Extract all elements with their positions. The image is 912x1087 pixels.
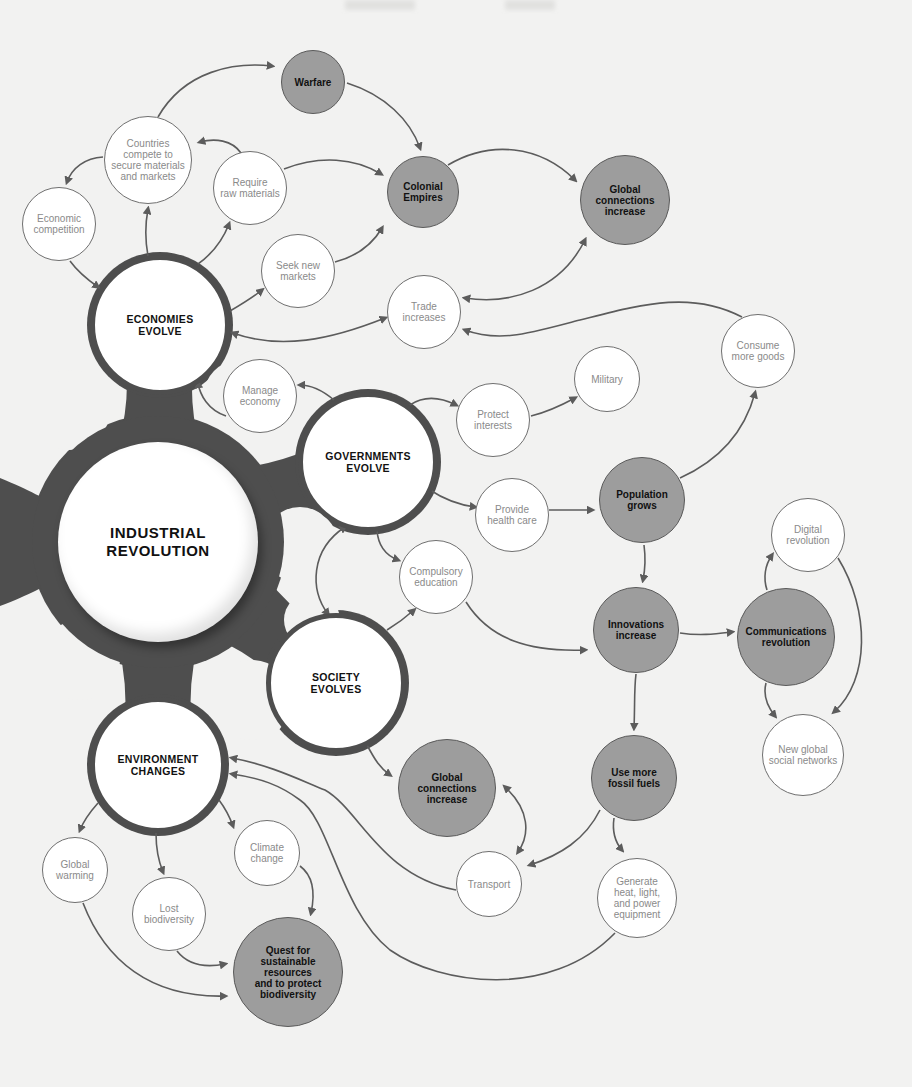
arrow-innovations-increase-to-use-more-fossil-fuels <box>634 674 636 728</box>
arrow-seek-new-markets-to-colonial-empires <box>335 228 382 262</box>
node-global-warming: Global warming <box>42 837 108 903</box>
node-label: Protect interests <box>474 409 512 431</box>
node-label: ECONOMIES EVOLVE <box>127 313 194 337</box>
node-label: Consume more goods <box>732 340 785 362</box>
arrow-lost-biodiversity-to-quest-sustainable <box>177 951 225 966</box>
arrow-environment-changes-to-global-warming <box>80 803 98 830</box>
node-global-connections-top: Global connections increase <box>580 155 670 245</box>
node-countries-compete: Countries compete to secure materials an… <box>104 116 192 204</box>
arrow-countries-compete-to-economic-competition <box>67 157 103 182</box>
node-label: Climate change <box>250 842 284 864</box>
arrow-population-grows-to-consume-more-goods <box>680 393 755 478</box>
node-governments-evolve: GOVERNMENTS EVOLVE <box>298 392 438 532</box>
arrow-communications-revolution-to-digital-revolution <box>765 555 772 590</box>
node-use-more-fossil-fuels: Use more fossil fuels <box>591 735 677 821</box>
node-new-global-social-networks: New global social networks <box>762 714 844 796</box>
arrow-society-evolves-to-global-connections-bottom <box>367 745 390 775</box>
arrow-governments-evolve-to-manage-economy <box>300 385 334 400</box>
arrow-economic-competition-to-economies-evolve <box>70 261 98 287</box>
node-require-raw-materials: Require raw materials <box>213 151 287 225</box>
node-label: Economic competition <box>33 213 84 235</box>
node-label: Colonial Empires <box>403 181 442 203</box>
node-consume-more-goods: Consume more goods <box>721 314 795 388</box>
mind-map-canvas: INDUSTRIAL REVOLUTIONECONOMIES EVOLVEGOV… <box>0 0 912 1087</box>
node-label: Innovations increase <box>608 619 664 641</box>
node-label: Compulsory education <box>409 566 462 588</box>
node-digital-revolution: Digital revolution <box>771 498 845 572</box>
node-generate-heat-light: Generate heat, light, and power equipmen… <box>597 858 677 938</box>
node-label: Population grows <box>616 489 668 511</box>
node-colonial-empires: Colonial Empires <box>387 156 459 228</box>
arrow-require-raw-materials-to-countries-compete <box>200 140 241 153</box>
arrow-governments-evolve-to-society-evolves <box>316 527 345 614</box>
arrow-innovations-increase-to-communications-revolution <box>680 632 732 635</box>
node-label: Use more fossil fuels <box>608 767 660 789</box>
arrow-governments-evolve-to-protect-interests <box>410 398 456 405</box>
node-lost-biodiversity: Lost biodiversity <box>132 877 206 951</box>
node-label: Seek new markets <box>276 260 320 282</box>
node-label: Lost biodiversity <box>144 903 194 925</box>
node-label: Global connections increase <box>596 184 655 217</box>
node-innovations-increase: Innovations increase <box>593 587 679 673</box>
arrow-global-connections-bottom-to-transport <box>505 787 526 852</box>
arrow-economies-evolve-to-require-raw-materials <box>198 224 229 264</box>
node-label: Require raw materials <box>220 177 279 199</box>
node-global-connections-bottom: Global connections increase <box>398 739 496 837</box>
arrow-governments-evolve-to-provide-health-care <box>430 490 475 507</box>
node-label: Trade increases <box>403 301 446 323</box>
arrow-economies-evolve-to-trade-increases <box>233 318 385 342</box>
node-label: Manage economy <box>240 385 281 407</box>
node-transport: Transport <box>456 851 522 917</box>
arrow-compulsory-education-to-innovations-increase <box>466 602 585 650</box>
node-economic-competition: Economic competition <box>22 187 96 261</box>
arrow-economies-evolve-to-seek-new-markets <box>230 290 262 311</box>
arrow-protect-interests-to-military <box>531 398 575 416</box>
node-economies-evolve: ECONOMIES EVOLVE <box>90 255 230 395</box>
node-label: GOVERNMENTS EVOLVE <box>325 450 411 474</box>
node-label: Transport <box>468 879 510 890</box>
arrow-society-evolves-to-compulsory-education <box>387 610 414 630</box>
node-seek-new-markets: Seek new markets <box>261 234 335 308</box>
node-label: New global social networks <box>769 744 837 766</box>
node-label: Generate heat, light, and power equipmen… <box>614 876 661 920</box>
arrow-governments-evolve-to-compulsory-education <box>377 530 398 560</box>
node-provide-health-care: Provide health care <box>475 478 549 552</box>
node-manage-economy: Manage economy <box>223 359 297 433</box>
node-label: SOCIETY EVOLVES <box>311 671 362 695</box>
arrow-use-more-fossil-fuels-to-transport <box>530 810 600 865</box>
node-trade-increases: Trade increases <box>387 275 461 349</box>
node-label: Global connections increase <box>418 772 477 805</box>
arrow-environment-changes-to-climate-change <box>219 800 233 826</box>
node-society-evolves: SOCIETY EVOLVES <box>266 613 406 753</box>
node-label: Military <box>591 374 623 385</box>
arrow-countries-compete-to-warfare <box>158 65 272 117</box>
arrow-communications-revolution-to-new-global-social-networks <box>765 683 775 716</box>
node-label: Provide health care <box>487 504 536 526</box>
node-quest-sustainable: Quest for sustainable resources and to p… <box>233 917 343 1027</box>
arrow-colonial-empires-to-global-connections-top <box>448 149 575 180</box>
node-label: Digital revolution <box>786 524 829 546</box>
node-climate-change: Climate change <box>234 820 300 886</box>
node-label: Warfare <box>295 77 332 88</box>
node-communications-revolution: Communications revolution <box>737 588 835 686</box>
node-label: INDUSTRIAL REVOLUTION <box>106 524 209 560</box>
arrow-warfare-to-colonial-empires <box>347 83 420 148</box>
node-industrial-revolution: INDUSTRIAL REVOLUTION <box>58 442 258 642</box>
arrow-population-grows-to-innovations-increase <box>643 545 645 580</box>
arrow-global-connections-top-to-trade-increases <box>465 240 585 300</box>
arrow-digital-revolution-to-new-global-social-networks <box>834 558 862 712</box>
node-military: Military <box>574 346 640 412</box>
arrow-manage-economy-to-economies-evolve <box>198 383 226 416</box>
arrow-climate-change-to-quest-sustainable <box>300 866 313 913</box>
node-compulsory-education: Compulsory education <box>399 540 473 614</box>
node-environment-changes: ENVIRONMENT CHANGES <box>90 697 226 833</box>
arrow-economies-evolve-to-countries-compete <box>146 209 148 256</box>
node-label: ENVIRONMENT CHANGES <box>118 753 199 777</box>
arrow-consume-more-goods-to-trade-increases <box>465 302 742 336</box>
node-label: Quest for sustainable resources and to p… <box>255 945 322 1000</box>
node-population-grows: Population grows <box>599 457 685 543</box>
node-label: Global warming <box>56 859 94 881</box>
node-label: Communications revolution <box>745 626 826 648</box>
node-warfare: Warfare <box>281 50 345 114</box>
node-protect-interests: Protect interests <box>456 383 530 457</box>
